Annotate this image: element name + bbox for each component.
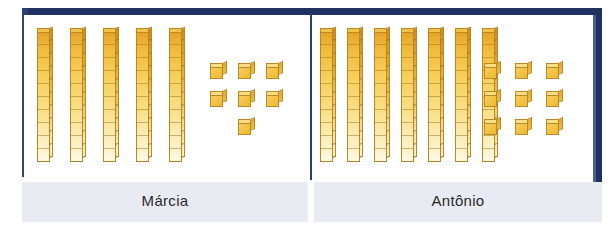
tens-rod-top [347,28,360,33]
unit-cube [266,63,283,79]
tens-rod-top [428,28,441,33]
label-band-antonio: Antônio [314,182,602,222]
tens-rod-segments-side [413,27,417,158]
unit-cube-face [238,95,251,107]
tens-rod [103,28,119,162]
tens-rod-segments-side [82,27,86,158]
frame-border-top-stub [22,8,28,15]
unit-cube-top [515,91,528,96]
unit-cube-top [238,63,251,68]
tens-rod-top [482,28,495,33]
unit-cube [546,119,563,135]
unit-cube-face [210,95,223,107]
unit-cube-face [238,123,251,135]
unit-cube-top [484,63,497,68]
unit-cube-top [238,91,251,96]
panel-marcia [24,15,308,177]
unit-cube-top [266,91,279,96]
unit-cube-top [546,91,559,96]
tens-rod-top [103,28,116,33]
unit-cube-top [546,63,559,68]
tens-rod-top [70,28,83,33]
tens-rod-segments-side [115,27,119,158]
unit-cube [484,91,501,107]
unit-cube-top [515,63,528,68]
unit-cube [484,119,501,135]
frame-border-right [596,10,602,206]
unit-cube [210,63,227,79]
tens-rod-top [455,28,468,33]
tens-rod-segments-side [49,27,53,158]
panel-label-antonio: Antônio [314,192,602,209]
tens-rod-segments-side [181,27,185,158]
unit-cube-top [515,119,528,124]
unit-cube-top [266,63,279,68]
unit-cube [484,63,501,79]
tens-rod-segments-side [440,27,444,158]
unit-cube-face [546,123,559,135]
unit-cube-top [484,91,497,96]
unit-cube-top [210,91,223,96]
unit-cube [238,63,255,79]
unit-cube-face [515,123,528,135]
unit-cube-face [515,67,528,79]
label-band-marcia: Márcia [22,182,308,222]
unit-cube [515,91,532,107]
unit-cube-face [210,67,223,79]
tens-rod [428,28,444,162]
tens-rod [347,28,363,162]
tens-rod [169,28,185,162]
unit-cube [515,63,532,79]
frame-border-top [22,8,602,15]
tens-rod-segments-side [467,27,471,158]
unit-cube [546,91,563,107]
panel-antonio [314,15,593,177]
unit-cube [515,119,532,135]
tens-rod-top [136,28,149,33]
panel-divider [310,13,312,180]
tens-rod-top [37,28,50,33]
tens-rod [37,28,53,162]
unit-cube [546,63,563,79]
unit-cube-face [484,123,497,135]
unit-cube-face [546,67,559,79]
unit-cube-top [238,119,251,124]
unit-cube-face [515,95,528,107]
tens-rod [401,28,417,162]
unit-cube-face [266,67,279,79]
unit-cube-top [210,63,223,68]
unit-cube [238,119,255,135]
unit-cube-face [546,95,559,107]
unit-cube-top [484,119,497,124]
unit-cube [238,91,255,107]
tens-rod [374,28,390,162]
tens-rod-top [401,28,414,33]
tens-rod [320,28,336,162]
unit-cube-face [238,67,251,79]
figure-frame: Márcia Antônio [0,0,616,228]
tens-rod [136,28,152,162]
unit-cube-face [484,95,497,107]
tens-rod-segments-side [359,27,363,158]
tens-rod [455,28,471,162]
tens-rod-segments-side [148,27,152,158]
panel-label-marcia: Márcia [22,192,308,209]
tens-rod-segments-side [332,27,336,158]
unit-cube-top [546,119,559,124]
unit-cube [266,91,283,107]
tens-rod [70,28,86,162]
unit-cube-face [484,67,497,79]
tens-rod-top [320,28,333,33]
tens-rod-segments-side [386,27,390,158]
unit-cube-face [266,95,279,107]
tens-rod-top [169,28,182,33]
unit-cube [210,91,227,107]
tens-rod-top [374,28,387,33]
